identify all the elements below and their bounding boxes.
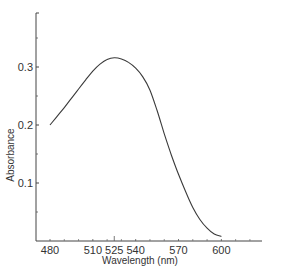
x-axis: 480510525540570600 xyxy=(36,236,262,256)
x-tick-label: 600 xyxy=(212,244,230,256)
x-axis-title: Wavelength (nm) xyxy=(102,255,178,266)
y-tick-label: 0.3 xyxy=(18,61,33,73)
y-tick-label: 0.1 xyxy=(18,177,33,189)
y-tick-label: 0.2 xyxy=(18,119,33,131)
spectrum-line xyxy=(50,58,221,237)
x-tick-label: 510 xyxy=(84,244,102,256)
x-tick-label: 480 xyxy=(41,244,59,256)
y-axis-title: Absorbance xyxy=(5,128,16,182)
y-axis: 0.10.20.3 xyxy=(18,13,39,241)
absorbance-chart: 0.10.20.3 480510525540570600 Wavelength … xyxy=(0,0,282,275)
